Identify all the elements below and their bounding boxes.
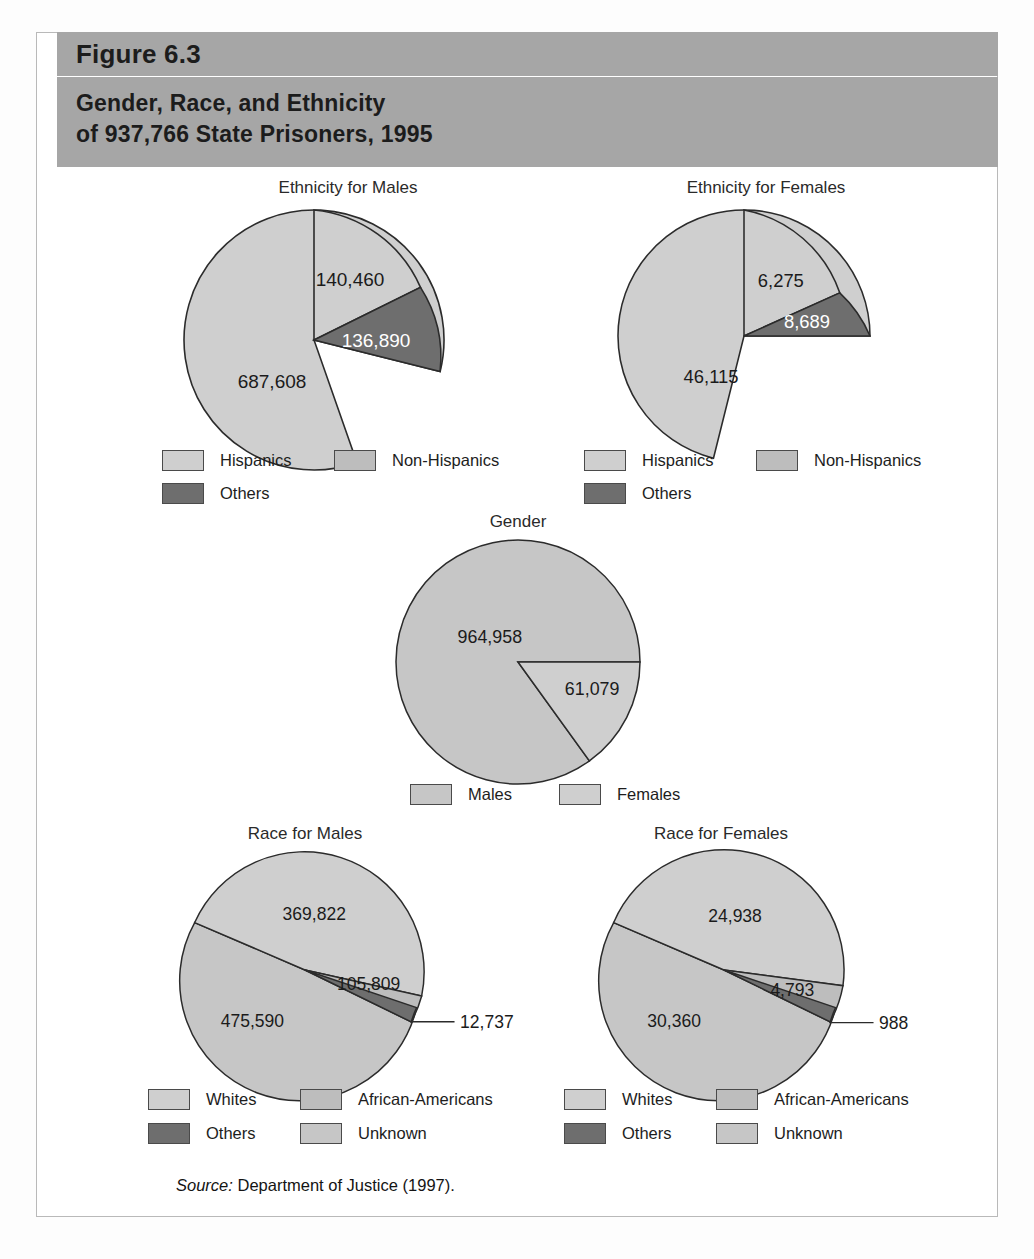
legend-item-hispanics: Hispanics: [162, 450, 292, 471]
slice-value-african-americans: 4,793: [770, 980, 814, 1000]
legend-swatch-others: [564, 1123, 606, 1144]
legend-item-non-hispanics: Non-Hispanics: [756, 450, 921, 471]
legend-swatch-others: [162, 483, 204, 504]
pie-gender: 964,958 61,079: [396, 540, 640, 784]
legend-ethnicity-males: Hispanics Non-Hispanics Others: [162, 450, 542, 510]
chart-race-males: Race for Males 369,822 105,809 475,590 1…: [140, 824, 540, 1154]
legend-item-males: Males: [410, 784, 512, 805]
legend-label-whites: Whites: [206, 1090, 256, 1109]
source-note: Source: Department of Justice (1997).: [176, 1176, 455, 1195]
legend-race-females: Whites African-Americans Others Unknown: [564, 1089, 954, 1151]
legend-swatch-hispanics: [162, 450, 204, 471]
legend-swatch-unknown: [300, 1123, 342, 1144]
slice-value-females: 61,079: [565, 679, 620, 699]
slice-value-whites: 369,822: [283, 904, 346, 924]
legend-label-others: Others: [220, 484, 270, 503]
chart-title-ethnicity-females: Ethnicity for Females: [566, 178, 966, 198]
legend-race-males: Whites African-Americans Others Unknown: [148, 1089, 538, 1151]
legend-label-non-hispanics: Non-Hispanics: [814, 451, 921, 470]
legend-item-females: Females: [559, 784, 680, 805]
legend-label-females: Females: [617, 785, 680, 804]
slice-value-others: 12,737: [460, 1012, 514, 1032]
chart-ethnicity-females: Ethnicity for Females 6,275 8,689 46,115…: [566, 178, 966, 508]
source-prefix: Source:: [176, 1176, 233, 1194]
legend-label-unknown: Unknown: [774, 1124, 843, 1143]
legend-item-others: Others: [564, 1123, 672, 1144]
slice-value-others: 8,689: [784, 311, 830, 332]
slice-value-unknown: 30,360: [647, 1011, 701, 1031]
slice-value-hispanics: 6,275: [758, 270, 804, 291]
chart-ethnicity-males: Ethnicity for Males 140,460 136,890 687,…: [148, 178, 548, 508]
chart-race-females: Race for Females 24,938 4,793 30,360 988…: [556, 824, 956, 1154]
legend-swatch-african-americans: [716, 1089, 758, 1110]
legend-item-whites: Whites: [564, 1089, 672, 1110]
legend-item-hispanics: Hispanics: [584, 450, 714, 471]
legend-item-whites: Whites: [148, 1089, 256, 1110]
figure-number: Figure 6.3: [76, 39, 201, 70]
legend-item-african-americans: African-Americans: [716, 1089, 909, 1110]
slice-value-others: 988: [879, 1013, 908, 1033]
legend-label-african-americans: African-Americans: [358, 1090, 493, 1109]
legend-label-unknown: Unknown: [358, 1124, 427, 1143]
pie-race-males: 369,822 105,809 475,590 12,737: [185, 850, 425, 1090]
legend-label-african-americans: African-Americans: [774, 1090, 909, 1109]
legend-swatch-african-americans: [300, 1089, 342, 1110]
slice-value-whites: 24,938: [708, 906, 762, 926]
legend-gender: Males Females: [410, 784, 690, 814]
source-text: Department of Justice (1997).: [233, 1176, 455, 1194]
chart-title-race-males: Race for Males: [140, 824, 470, 844]
legend-swatch-whites: [148, 1089, 190, 1110]
legend-item-non-hispanics: Non-Hispanics: [334, 450, 499, 471]
pie-ethnicity-males: 140,460 136,890 687,608: [184, 210, 444, 470]
slice-value-hispanics: 140,460: [316, 269, 385, 290]
slice-value-african-americans: 105,809: [337, 974, 400, 994]
legend-label-others: Others: [622, 1124, 672, 1143]
legend-swatch-hispanics: [584, 450, 626, 471]
legend-label-others: Others: [642, 484, 692, 503]
legend-swatch-others: [148, 1123, 190, 1144]
pie-ethnicity-females: 6,275 8,689 46,115: [618, 210, 870, 462]
legend-swatch-non-hispanics: [756, 450, 798, 471]
figure-title-line-2: of 937,766 State Prisoners, 1995: [76, 119, 936, 150]
chart-title-ethnicity-males: Ethnicity for Males: [148, 178, 548, 198]
chart-title-gender: Gender: [368, 512, 668, 532]
legend-label-males: Males: [468, 785, 512, 804]
slice-value-unknown: 475,590: [221, 1011, 285, 1031]
legend-item-unknown: Unknown: [300, 1123, 427, 1144]
legend-ethnicity-females: Hispanics Non-Hispanics Others: [584, 450, 964, 510]
slice-value-non-hispanics: 46,115: [684, 366, 739, 387]
legend-label-hispanics: Hispanics: [220, 451, 292, 470]
slice-value-others: 136,890: [342, 330, 411, 351]
slice-value-males: 964,958: [458, 627, 523, 647]
figure-title-line-1: Gender, Race, and Ethnicity: [76, 88, 936, 119]
chart-gender: Gender 964,958 61,079 Males Females: [368, 512, 668, 812]
legend-swatch-non-hispanics: [334, 450, 376, 471]
legend-item-unknown: Unknown: [716, 1123, 843, 1144]
legend-swatch-males: [410, 784, 452, 805]
legend-item-african-americans: African-Americans: [300, 1089, 493, 1110]
legend-item-others: Others: [162, 483, 270, 504]
legend-swatch-others: [584, 483, 626, 504]
figure-title: Gender, Race, and Ethnicity of 937,766 S…: [76, 88, 936, 149]
chart-title-race-females: Race for Females: [556, 824, 886, 844]
legend-label-hispanics: Hispanics: [642, 451, 714, 470]
legend-swatch-unknown: [716, 1123, 758, 1144]
legend-item-others: Others: [148, 1123, 256, 1144]
legend-label-others: Others: [206, 1124, 256, 1143]
legend-swatch-whites: [564, 1089, 606, 1110]
legend-label-whites: Whites: [622, 1090, 672, 1109]
slice-value-non-hispanics: 687,608: [238, 371, 307, 392]
legend-swatch-females: [559, 784, 601, 805]
legend-label-non-hispanics: Non-Hispanics: [392, 451, 499, 470]
figure-page: Figure 6.3 Gender, Race, and Ethnicity o…: [0, 0, 1034, 1259]
legend-item-others: Others: [584, 483, 692, 504]
pie-race-females: 24,938 4,793 30,360 988: [604, 850, 844, 1090]
